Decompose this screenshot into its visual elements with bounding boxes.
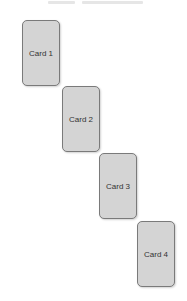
card-label: Card 2: [69, 115, 93, 124]
card-4[interactable]: Card 4: [137, 221, 175, 287]
card-3[interactable]: Card 3: [99, 153, 137, 219]
card-label: Card 4: [144, 250, 168, 259]
card-label: Card 1: [29, 49, 53, 58]
clipped-header-text: [0, 0, 187, 6]
card-2[interactable]: Card 2: [62, 86, 100, 152]
card-1[interactable]: Card 1: [22, 20, 60, 86]
clipped-word: [48, 1, 75, 4]
clipped-word: [82, 1, 143, 4]
card-label: Card 3: [106, 182, 130, 191]
